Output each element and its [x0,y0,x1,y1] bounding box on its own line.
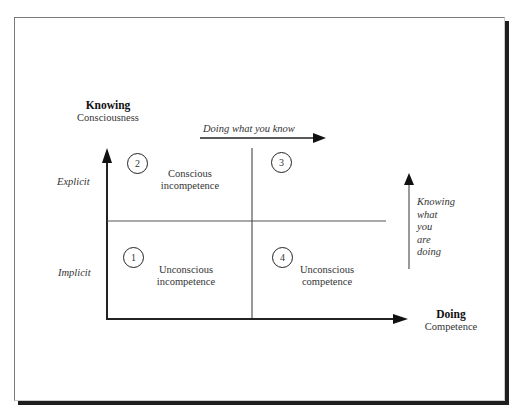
quadrant-4-label: Unconscious competence [290,264,364,288]
side-arrow-label: Knowing what you are doing [417,196,455,259]
row-label-implicit: Implicit [58,267,91,279]
quadrant-2-label: Conscious incompetence [150,168,230,192]
quadrant-2-line2: incompetence [150,180,230,192]
side-arrow-arrowhead-icon [404,173,414,185]
y-axis-arrowhead-icon [102,148,112,163]
quadrant-2-line1: Conscious [150,168,230,180]
x-axis-title: Doing [416,308,486,321]
row-label-explicit: Explicit [57,176,90,188]
quadrant-2-number-badge: 2 [127,153,148,174]
y-axis-title: Knowing [78,99,138,112]
y-axis-subtitle: Consciousness [58,112,158,124]
quadrant-3-number-badge: 3 [271,152,292,173]
quadrant-1-line2: incompetence [144,276,228,288]
quadrant-1-line1: Unconscious [144,264,228,276]
side-arrow-label-line: you [417,221,455,234]
quadrant-1-number-badge: 1 [123,247,144,268]
side-arrow-label-line: Knowing [417,196,455,209]
x-axis-arrowhead-icon [393,314,408,324]
x-axis-subtitle: Competence [411,321,491,333]
quadrant-4-line2: competence [290,276,364,288]
quadrant-1-label: Unconscious incompetence [144,264,228,288]
side-arrow-label-line: are [417,234,455,247]
side-arrow-label-line: doing [417,246,455,259]
quadrant-4-line1: Unconscious [290,264,364,276]
top-arrow-label: Doing what you know [203,123,295,135]
side-arrow-label-line: what [417,209,455,222]
top-arrow-arrowhead-icon [313,133,326,143]
